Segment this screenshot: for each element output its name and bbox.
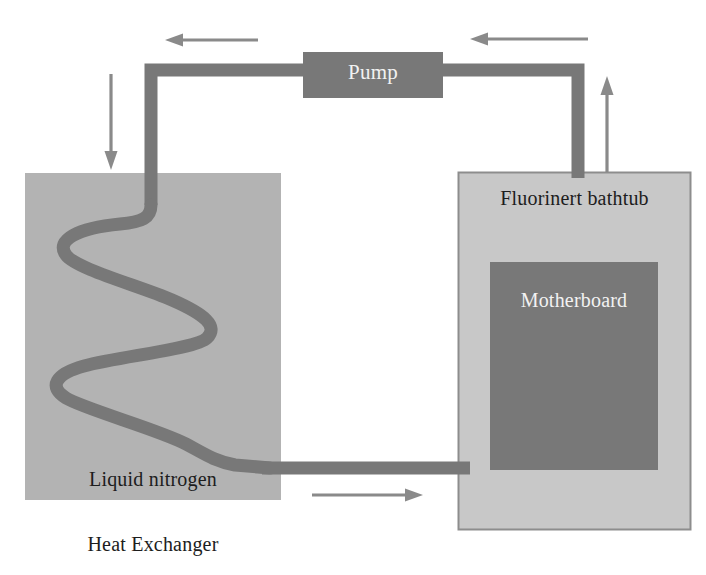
liquid-nitrogen-label: Liquid nitrogen (25, 468, 281, 491)
fluorinert-bathtub-label: Fluorinert bathtub (458, 187, 691, 210)
pump-label: Pump (303, 60, 443, 85)
heat-exchanger-caption: Heat Exchanger (25, 533, 281, 556)
arrow-top-left-icon (165, 34, 258, 47)
arrow-top-right-icon (470, 33, 588, 46)
arrow-down-left-icon (105, 74, 118, 170)
heat-exchanger-box (25, 173, 281, 500)
pipe-bathtub-to-pump (440, 70, 578, 178)
motherboard-label: Motherboard (490, 289, 658, 312)
diagram-canvas: Pump Fluorinert bathtub Motherboard Liqu… (0, 0, 706, 575)
arrow-up-right-icon (601, 76, 614, 172)
arrow-bottom-middle-icon (312, 489, 423, 502)
